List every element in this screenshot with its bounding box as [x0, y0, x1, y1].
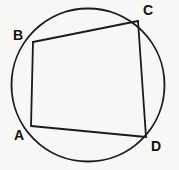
side-CD: [138, 21, 146, 137]
vertex-label-c: C: [143, 3, 153, 17]
vertex-label-a: A: [14, 128, 24, 142]
vertex-label-b: B: [13, 28, 23, 42]
side-DA: [31, 126, 146, 137]
vertex-label-d: D: [151, 139, 161, 153]
side-BC: [33, 21, 138, 42]
geometry-diagram: A B C D: [0, 0, 179, 170]
side-AB: [31, 42, 33, 126]
